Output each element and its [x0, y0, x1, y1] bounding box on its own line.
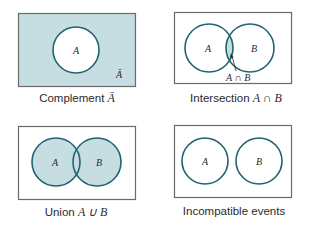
circle-label-b: B [251, 43, 257, 54]
caption-intersection: Intersection A ∩ B [190, 91, 282, 106]
caption-text: Complement [39, 92, 107, 104]
caption-union: Union A ∪ B [45, 205, 108, 220]
caption-complement: Complement Ā [39, 91, 115, 106]
caption-text: Union [45, 206, 78, 218]
circle-label-a: A [72, 45, 80, 56]
panel-incompatible: A B [175, 126, 292, 198]
caption-text: Incompatible events [183, 205, 285, 217]
panel-union: A B [19, 127, 136, 200]
circle-label-b: B [256, 156, 262, 167]
caption-math: A ∩ B [253, 91, 282, 105]
caption-text: Intersection [190, 92, 253, 104]
circle-label-a: A [201, 156, 209, 167]
caption-math: Ā [108, 91, 115, 105]
panel-intersection: A B A ∩ B [175, 13, 292, 84]
panel-complement: A Ā [19, 14, 136, 87]
circle-label-b: B [96, 157, 102, 168]
caption-incompatible: Incompatible events [183, 204, 285, 219]
circle-label-a: A [204, 43, 212, 54]
universe-box-incompatible [175, 126, 292, 198]
circle-label-a: A [51, 157, 59, 168]
venn-diagrams: A Ā A B A ∩ B A B A B [0, 0, 317, 230]
pointer-label: A ∩ B [225, 72, 250, 83]
complement-region-label: Ā [115, 69, 123, 80]
caption-math: A ∪ B [78, 205, 107, 219]
